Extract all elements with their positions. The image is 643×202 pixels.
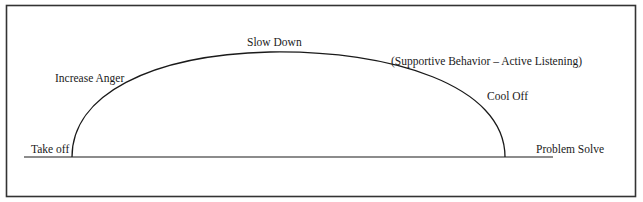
anger-arc xyxy=(72,52,505,157)
label-increase-anger: Increase Anger xyxy=(55,72,124,85)
label-take-off: Take off xyxy=(31,143,69,155)
diagram-frame xyxy=(7,6,636,197)
anger-cycle-diagram: Take off Increase Anger Slow Down (Suppo… xyxy=(0,0,643,202)
label-slow-down: Slow Down xyxy=(247,36,302,48)
label-cool-off: Cool Off xyxy=(487,90,528,102)
label-supportive-behavior: (Supportive Behavior – Active Listening) xyxy=(391,55,582,68)
label-problem-solve: Problem Solve xyxy=(536,143,604,155)
